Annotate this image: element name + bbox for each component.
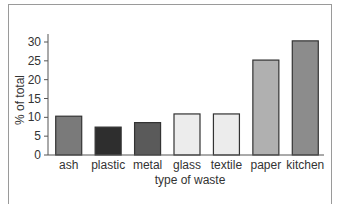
y-tick-label: 5 — [34, 129, 41, 143]
y-tick-label: 10 — [28, 110, 42, 124]
y-tick-label: 25 — [28, 54, 42, 68]
bar-glass — [174, 114, 200, 155]
x-tick-label: glass — [173, 158, 201, 172]
x-tick-label: kitchen — [286, 158, 324, 172]
bar-kitchen — [292, 41, 318, 155]
y-axis: 051015202530 — [28, 34, 48, 162]
bar-metal — [135, 123, 161, 155]
bar-paper — [253, 60, 279, 155]
y-tick-label: 0 — [34, 148, 41, 162]
bar-textile — [213, 114, 239, 155]
x-tick-label: textile — [211, 158, 243, 172]
x-axis: ashplasticmetalglasstextilepaperkitchen — [48, 155, 324, 172]
y-tick-label: 30 — [28, 35, 42, 49]
bar-chart: 051015202530 ashplasticmetalglasstextile… — [0, 0, 340, 202]
y-tick-label: 15 — [28, 92, 42, 106]
x-tick-label: metal — [133, 158, 162, 172]
y-tick-label: 20 — [28, 73, 42, 87]
bar-plastic — [95, 127, 121, 155]
bars — [56, 41, 319, 155]
x-axis-title: type of waste — [155, 173, 226, 187]
y-axis-title: % of total — [13, 75, 27, 125]
x-tick-label: paper — [251, 158, 282, 172]
bar-ash — [56, 116, 82, 155]
x-tick-label: ash — [59, 158, 78, 172]
x-tick-label: plastic — [91, 158, 125, 172]
